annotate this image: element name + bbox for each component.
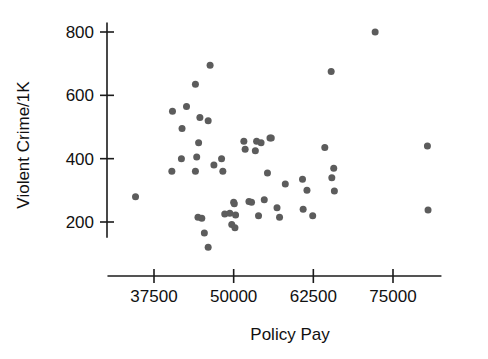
scatter-point [192,168,199,175]
scatter-point [328,174,335,181]
scatter-point [205,117,212,124]
scatter-point [424,143,431,150]
scatter-point [231,224,238,231]
y-axis: 200400600800 [66,23,114,238]
scatter-point [372,29,379,36]
x-axis-tick-label: 50000 [210,287,257,306]
scatter-point [210,162,217,169]
scatter-point [240,138,247,145]
scatter-point [198,215,205,222]
scatter-point [248,199,255,206]
scatter-point [328,68,335,75]
y-axis-tick-label: 600 [66,86,94,105]
x-axis-tick-label: 75000 [369,287,416,306]
scatter-point [205,244,212,251]
scatter-point [331,187,338,194]
scatter-point [195,139,202,146]
y-axis-tick-label: 800 [66,23,94,42]
scatter-point [168,168,175,175]
scatter-point [201,230,208,237]
x-axis-tick-label: 62500 [290,287,337,306]
scatter-point [299,176,306,183]
scatter-point [183,103,190,110]
scatter-point [219,168,226,175]
x-axis-title: Policy Pay [250,325,330,344]
scatter-point [300,206,307,213]
scatter-point [207,62,214,69]
y-axis-title: Violent Crime/1K [14,81,33,209]
scatter-point [261,196,268,203]
scatter-point [231,200,238,207]
x-axis-tick-label: 37500 [130,287,177,306]
x-axis: 37500500006250075000 [107,269,441,306]
scatter-point [132,193,139,200]
scatter-point [242,146,249,153]
scatter-point [425,206,432,213]
scatter-point [255,212,262,219]
scatter-point [178,155,185,162]
scatter-point [274,204,281,211]
scatter-point [192,81,199,88]
scatter-point [264,169,271,176]
y-axis-tick-label: 200 [66,213,94,232]
scatter-point [309,212,316,219]
scatter-point [218,155,225,162]
scatter-point [169,108,176,115]
scatter-point [268,135,275,142]
scatter-point [193,154,200,161]
scatter-point [330,165,337,172]
scatter-point [321,144,328,151]
scatter-point [258,139,265,146]
scatter-point [282,181,289,188]
scatter-point [303,187,310,194]
scatter-point [276,214,283,221]
scatter-point [196,114,203,121]
y-axis-tick-label: 400 [66,150,94,169]
scatter-plot-figure: 200400600800 37500500006250075000 Policy… [0,0,488,359]
chart-canvas: 200400600800 37500500006250075000 Policy… [0,0,488,359]
scatter-point [252,147,259,154]
data-points-layer [132,29,432,251]
scatter-point [232,212,239,219]
scatter-point [179,125,186,132]
